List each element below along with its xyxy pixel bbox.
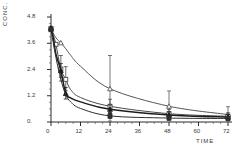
series-curve-b: [49, 26, 230, 119]
x-tick-label: 72: [223, 128, 230, 134]
axis-lines: [51, 14, 232, 122]
axis-minor-ticks: [49, 24, 221, 124]
series-line: [51, 30, 228, 119]
y-tick-label: 4.8: [27, 13, 35, 19]
figure: CONC. TIME 01224364860720.1.22.43.64.8: [0, 0, 238, 150]
series-curve-d: [49, 28, 230, 121]
data-points: [49, 26, 231, 120]
data-points: [49, 26, 230, 118]
x-tick-label: 60: [194, 128, 201, 134]
y-tick-label: 3.6: [27, 39, 35, 45]
x-tick-label: 0: [46, 128, 49, 134]
x-tick-label: 36: [135, 128, 142, 134]
axis-ticks: [47, 17, 228, 126]
series-curve-c: [49, 26, 231, 120]
y-tick-label: 0.: [27, 118, 32, 124]
data-points: [49, 27, 231, 117]
x-tick-label: 24: [105, 128, 112, 134]
series-line: [51, 28, 228, 117]
x-tick-label: 12: [76, 128, 83, 134]
y-tick-label: 1.2: [27, 92, 35, 98]
chart-canvas: [0, 0, 238, 150]
series-curve-a: [49, 27, 231, 121]
series-line: [51, 28, 228, 116]
x-tick-label: 48: [164, 128, 171, 134]
y-tick-label: 2.4: [27, 66, 35, 72]
